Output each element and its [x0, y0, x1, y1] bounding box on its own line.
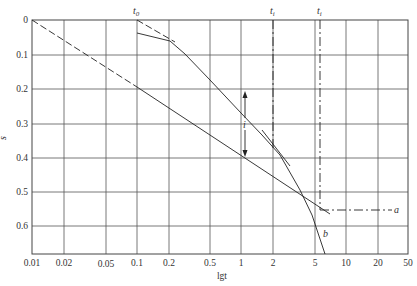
horizontal-grid [32, 55, 408, 226]
svg-text:1: 1 [239, 258, 244, 268]
svg-text:10: 10 [341, 258, 351, 268]
x-axis-label: lgt [217, 271, 227, 281]
svg-text:0.05: 0.05 [98, 259, 115, 269]
svg-text:5: 5 [313, 258, 318, 268]
x-axis-ticks: 0.01 0.02 0.05 0.1 0.2 0.5 1 2 5 10 20 5… [24, 258, 413, 269]
svg-text:0.2: 0.2 [16, 84, 28, 94]
svg-text:0.4: 0.4 [16, 153, 28, 163]
semilog-line [32, 20, 330, 214]
svg-text:0: 0 [23, 15, 28, 25]
chart: i a b t0 ti ti 0 0.1 0.2 0.3 0.4 0.5 0.6… [0, 0, 417, 286]
b-label: b [323, 228, 328, 239]
curve-b [137, 33, 325, 254]
svg-text:0.2: 0.2 [163, 258, 175, 268]
svg-text:0.01: 0.01 [24, 258, 41, 268]
a-label: a [394, 204, 399, 215]
tangent-line [262, 130, 290, 166]
ti-label-1: ti [270, 5, 275, 18]
svg-text:0.1: 0.1 [16, 50, 28, 60]
svg-text:0.3: 0.3 [16, 119, 28, 129]
t0-label: t0 [133, 5, 140, 18]
svg-text:0.6: 0.6 [16, 221, 28, 231]
svg-text:0.1: 0.1 [131, 258, 143, 268]
svg-text:0.5: 0.5 [16, 187, 28, 197]
svg-text:0.02: 0.02 [56, 258, 73, 268]
svg-text:0.5: 0.5 [204, 258, 216, 268]
svg-text:20: 20 [373, 258, 383, 268]
y-axis-label: s [0, 136, 8, 140]
svg-text:2: 2 [271, 258, 276, 268]
y-axis-ticks: 0 0.1 0.2 0.3 0.4 0.5 0.6 [16, 15, 28, 231]
i-label: i [243, 119, 246, 130]
svg-text:50: 50 [403, 258, 413, 268]
ti-label-2: ti [317, 5, 322, 18]
